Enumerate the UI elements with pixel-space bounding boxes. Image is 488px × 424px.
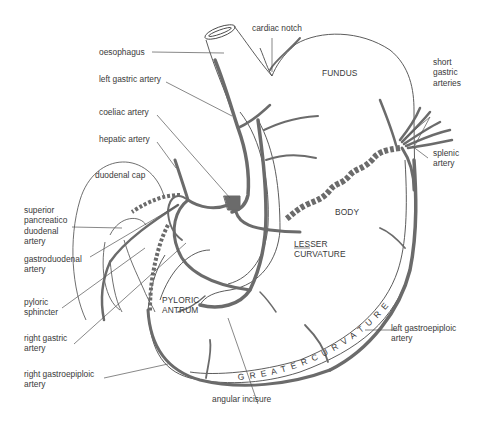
- label-hepatic-artery: hepatic artery: [99, 134, 150, 144]
- coeliac-artery-path: [224, 196, 240, 210]
- leader-lines: [62, 38, 430, 404]
- label-angular-incisure: angular incisure: [212, 394, 271, 404]
- label-short-gastric-arteries: short gastric arteries: [433, 57, 461, 88]
- region-fundus: FUNDUS: [322, 68, 358, 78]
- label-splenic-artery: splenic artery: [433, 148, 459, 169]
- region-lesser-curvature: LESSER CURVATURE: [294, 239, 346, 260]
- stomach-diagram: G R E A T E R C U R V A T U R E: [0, 0, 488, 424]
- label-oesophagus: oesophagus: [99, 47, 145, 57]
- label-right-gastric-artery: right gastric artery: [24, 333, 67, 354]
- label-gastroduodenal-artery: gastroduodenal artery: [24, 254, 82, 275]
- label-cardiac-notch: cardiac notch: [252, 23, 302, 33]
- region-pyloric-antrum: PYLORIC ANTRUM: [162, 295, 199, 316]
- stomach-outline: [148, 22, 415, 383]
- label-left-gastroepiploic-artery: left gastroepiploic artery: [391, 323, 456, 344]
- label-right-gastroepiploic-artery: right gastroepiploic artery: [24, 369, 94, 390]
- right-gastric-artery-path: [174, 200, 250, 290]
- label-coeliac-artery: coeliac artery: [99, 107, 149, 117]
- label-duodenal-cap: duodenal cap: [95, 170, 145, 180]
- region-body: BODY: [335, 207, 359, 217]
- left-gastric-artery-path: [215, 60, 249, 212]
- label-superior-pancreaticoduodenal-artery: superior pancreatico duodenal artery: [24, 205, 67, 247]
- duodenum-outline: [73, 162, 164, 320]
- label-left-gastric-artery: left gastric artery: [99, 74, 161, 84]
- label-pyloric-sphincter: pyloric sphincter: [24, 297, 58, 318]
- hepatic-artery-path: [175, 160, 228, 208]
